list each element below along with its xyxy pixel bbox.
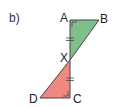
vertex-label-a: A	[60, 11, 68, 25]
vertex-label-b: B	[100, 12, 108, 26]
vertex-label-c: C	[73, 92, 82, 106]
triangle-xdc	[40, 60, 70, 98]
geometry-diagram: A B X D C	[0, 0, 120, 107]
triangle-abx	[70, 20, 99, 60]
vertex-label-d: D	[29, 92, 38, 106]
vertex-label-x: X	[60, 51, 68, 65]
